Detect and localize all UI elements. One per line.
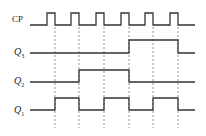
waveform-q1	[30, 98, 195, 110]
signal-label-q2: Q2	[14, 75, 24, 88]
signal-label-q3: Q3	[14, 46, 24, 59]
signal-label-cp: CP	[12, 14, 23, 24]
signal-label-q1: Q1	[14, 104, 24, 117]
waveform-cp	[30, 13, 195, 25]
timing-waveforms	[0, 0, 206, 136]
